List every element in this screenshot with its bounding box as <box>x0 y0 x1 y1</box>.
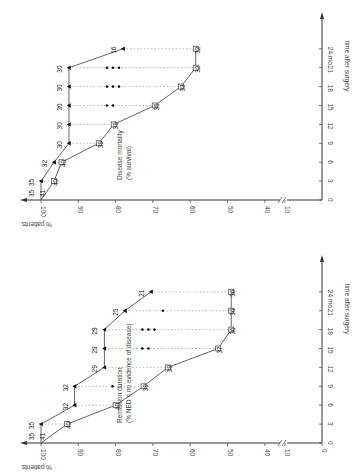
data-label: 32 <box>41 160 48 168</box>
chart-subtitle: (% survival) <box>125 146 133 180</box>
data-label: 35 <box>28 421 35 429</box>
data-label: 29 <box>91 365 98 373</box>
x-tick-label: 21 <box>327 66 334 74</box>
data-label: 36 <box>229 308 236 316</box>
censor-dot <box>106 85 109 88</box>
chart-bottom: 100908070605040100% patients036912151821… <box>20 255 351 471</box>
axis-arrow-icon <box>320 255 324 262</box>
data-label: 33 <box>179 84 186 92</box>
y-tick-label: 70 <box>152 206 159 214</box>
axis-arrow-icon <box>320 12 324 19</box>
y-tick-label: 60 <box>189 449 196 457</box>
y-tick-label: 50 <box>227 206 234 214</box>
data-label: 41 <box>39 432 46 440</box>
data-label: 30 <box>56 65 63 73</box>
data-label: 35 <box>28 189 35 197</box>
data-label: 39 <box>166 365 173 373</box>
data-label: 40 <box>60 160 67 168</box>
x-tick-label: 24 mo. <box>327 47 334 67</box>
y-tick-label: 50 <box>227 449 234 457</box>
x-axis-label: time after surgery <box>343 41 351 92</box>
data-label: 36 <box>229 289 236 297</box>
x-tick-label: 0 <box>327 198 334 202</box>
survival-charts: 10090807060504010% patients0369121518212… <box>0 0 362 473</box>
data-label: 35 <box>28 178 35 186</box>
censor-dot <box>112 66 115 69</box>
censor-dot <box>112 85 115 88</box>
y-axis-label: % patients <box>21 220 52 228</box>
x-tick-label: 15 <box>327 104 334 112</box>
censor-dot <box>106 104 109 107</box>
censor-dot <box>153 328 156 331</box>
data-label: 39 <box>97 141 104 149</box>
axis-arrow-icon <box>20 198 27 202</box>
filled-triangle-icon <box>121 47 125 51</box>
data-label: 39 <box>142 384 149 392</box>
data-label: 29 <box>91 346 98 354</box>
y-tick-label: 100 <box>40 449 47 460</box>
data-label: 40 <box>114 403 121 411</box>
x-tick-label: 18 <box>327 85 334 93</box>
data-label: 16 <box>110 46 117 54</box>
censor-dot <box>141 328 144 331</box>
x-axis-label: time after surgery <box>343 284 351 335</box>
axis-arrow-icon <box>20 441 27 445</box>
chart-top: 10090807060504010% patients0369121518212… <box>20 12 351 228</box>
y-tick-label: 0 <box>321 449 328 453</box>
chart-subtitle: (% NED = no evidence of disease) <box>125 323 133 423</box>
y-tick-label: 90 <box>77 449 84 457</box>
censor-dot <box>147 328 150 331</box>
data-label: 25 <box>112 308 119 316</box>
x-tick-label: 6 <box>327 160 334 164</box>
censor-dot <box>112 104 115 107</box>
data-label: 32 <box>62 403 69 411</box>
data-label: 29 <box>91 327 98 335</box>
censor-dot <box>141 347 144 350</box>
data-label: 30 <box>56 84 63 92</box>
data-label: 30 <box>56 122 63 130</box>
y-tick-label: 40 <box>264 449 271 457</box>
data-label: 40 <box>65 421 72 429</box>
y-tick-label: 10 <box>284 206 291 214</box>
x-tick-label: 9 <box>327 384 334 388</box>
data-label: 39 <box>112 122 119 130</box>
chart-title: Disease mortality <box>116 129 124 180</box>
censor-dot <box>106 66 109 69</box>
data-label: 30 <box>56 141 63 149</box>
data-label: 30 <box>56 103 63 111</box>
x-tick-label: 0 <box>327 441 334 445</box>
x-tick-label: 24 mo. <box>327 290 334 310</box>
y-tick-label: 60 <box>189 206 196 214</box>
censor-dot <box>118 85 121 88</box>
y-tick-label: 40 <box>264 206 271 214</box>
data-label: 32 <box>62 384 69 392</box>
x-tick-label: 12 <box>327 365 334 373</box>
x-tick-label: 21 <box>327 309 334 317</box>
x-tick-label: 15 <box>327 347 334 355</box>
data-label: 35 <box>28 432 35 440</box>
y-tick-label: 100 <box>40 206 47 217</box>
censor-dot <box>118 66 121 69</box>
y-axis-label: % patients <box>21 463 52 471</box>
censor-dot <box>111 385 114 388</box>
x-tick-label: 6 <box>327 403 334 407</box>
data-label: 37 <box>216 346 223 354</box>
x-tick-label: 9 <box>327 141 334 145</box>
censor-dot <box>162 309 165 312</box>
y-tick-label: 90 <box>77 206 84 214</box>
y-tick-label: 10 <box>284 449 291 457</box>
data-label: 35 <box>153 103 160 111</box>
x-tick-label: 3 <box>327 422 334 426</box>
data-label: 32 <box>194 65 201 73</box>
x-tick-label: 12 <box>327 122 334 130</box>
censor-dot <box>147 347 150 350</box>
data-label: 41 <box>39 189 46 197</box>
filled-triangle-icon <box>52 160 56 164</box>
data-label: 21 <box>138 289 145 297</box>
x-tick-label: 18 <box>327 328 334 336</box>
y-tick-label: 80 <box>115 449 122 457</box>
data-label: 32 <box>194 46 201 54</box>
data-label: 36 <box>229 327 236 335</box>
x-tick-label: 3 <box>327 179 334 183</box>
chart-title: Remission duration <box>116 367 123 423</box>
